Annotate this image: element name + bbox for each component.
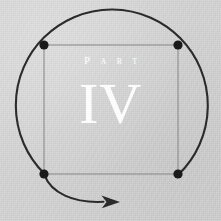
part-divider-page: Part IV [0, 0, 221, 221]
node-top-right [173, 40, 182, 49]
circle-square-cycle-diagram [0, 0, 221, 221]
inscribed-square [44, 45, 178, 174]
node-bottom-left [39, 169, 48, 178]
cycle-arc [16, 9, 208, 174]
node-top-left [39, 40, 48, 49]
node-bottom-right [173, 169, 182, 178]
arrow-tail [45, 175, 104, 202]
